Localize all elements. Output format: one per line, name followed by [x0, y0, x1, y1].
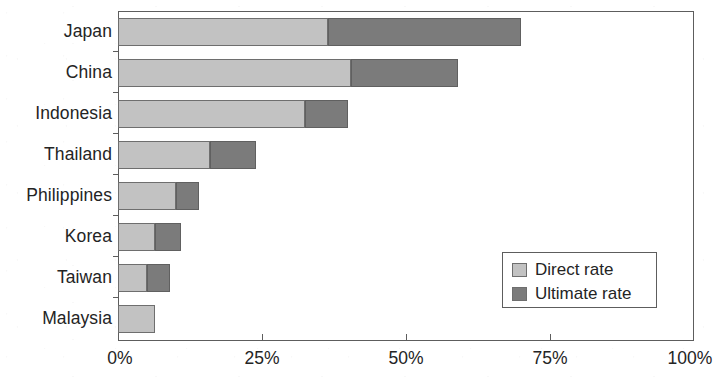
category-label-malaysia: Malaysia — [0, 310, 112, 328]
bar-segment-direct — [118, 59, 351, 87]
x-axis-tick-label-25: 25% — [244, 350, 279, 368]
legend-swatch-direct-icon — [512, 263, 527, 277]
x-axis-tick — [262, 334, 263, 341]
bar-segment-ultimate — [328, 18, 521, 46]
bar-segment-ultimate — [176, 182, 199, 210]
category-label-indonesia: Indonesia — [0, 105, 112, 123]
x-axis-tick — [550, 334, 551, 341]
x-axis-tick — [118, 334, 119, 341]
category-label-thailand: Thailand — [0, 146, 112, 164]
x-axis: 0% 25% 50% 75% 100% — [118, 341, 694, 381]
x-axis-tick-label-75: 75% — [532, 350, 567, 368]
legend-label-ultimate-rate: Ultimate rate — [535, 285, 631, 302]
legend-item-direct-rate: Direct rate — [512, 258, 656, 281]
category-axis-labels: Japan China Indonesia Thailand Philippin… — [0, 11, 112, 341]
legend-swatch-ultimate-icon — [512, 287, 527, 301]
bar-segment-ultimate — [305, 100, 348, 128]
bar-segment-ultimate — [155, 223, 181, 251]
category-label-korea: Korea — [0, 228, 112, 246]
category-label-taiwan: Taiwan — [0, 269, 112, 287]
bar-segment-ultimate — [147, 264, 170, 292]
category-label-japan: Japan — [0, 23, 112, 41]
bar-segment-ultimate — [210, 141, 256, 169]
bar-segment-direct — [118, 264, 147, 292]
x-axis-tick — [406, 334, 407, 341]
category-label-philippines: Philippines — [0, 187, 112, 205]
bar-segment-direct — [118, 182, 176, 210]
bar-segment-direct — [118, 141, 210, 169]
category-label-china: China — [0, 64, 112, 82]
chart-legend: Direct rate Ultimate rate — [502, 252, 657, 308]
x-axis-tick-label-0: 0% — [107, 350, 132, 368]
legend-label-direct-rate: Direct rate — [535, 261, 613, 278]
bar-segment-ultimate — [351, 59, 458, 87]
x-axis-tick-label-50: 50% — [388, 350, 423, 368]
x-axis-tick — [693, 334, 694, 341]
bar-segment-direct — [118, 18, 328, 46]
bar-segment-direct — [118, 223, 155, 251]
bar-segment-direct — [118, 305, 155, 333]
stacked-bar-chart: Japan China Indonesia Thailand Philippin… — [0, 0, 719, 381]
legend-item-ultimate-rate: Ultimate rate — [512, 282, 656, 305]
x-axis-tick-label-100: 100% — [668, 350, 713, 368]
bar-segment-direct — [118, 100, 305, 128]
